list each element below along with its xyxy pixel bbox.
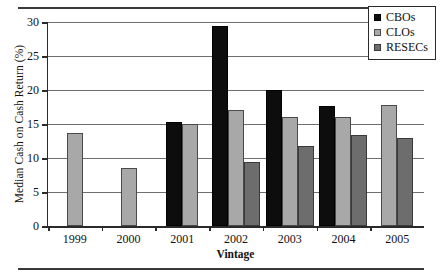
chart-legend: CBOsCLOsRESECs — [368, 6, 436, 60]
y-tick-15 — [42, 124, 48, 126]
bar-clos-2003 — [282, 117, 298, 226]
x-tick-4 — [263, 226, 265, 231]
legend-label-resecs: RESECs — [386, 41, 428, 54]
y-tick-label-30: 30 — [27, 15, 39, 30]
figure-container: Median Cash on Cash Return (%) 051015202… — [0, 0, 442, 280]
x-tick-label-2000: 2000 — [117, 232, 141, 247]
x-tick-6 — [370, 226, 372, 231]
x-tick-label-2005: 2005 — [385, 232, 409, 247]
y-tick-5 — [42, 192, 48, 194]
legend-swatch-clos-icon — [374, 29, 381, 36]
gridline-20 — [48, 90, 424, 91]
y-tick-10 — [42, 158, 48, 160]
y-tick-label-20: 20 — [27, 83, 39, 98]
x-tick-label-2003: 2003 — [278, 232, 302, 247]
bar-clos-1999 — [67, 133, 83, 226]
x-tick-label-1999: 1999 — [63, 232, 87, 247]
x-tick-label-2002: 2002 — [224, 232, 248, 247]
bar-clos-2001 — [182, 124, 198, 226]
x-tick-3 — [209, 226, 211, 231]
x-axis-title: Vintage — [47, 248, 424, 260]
bar-resecs-2004 — [351, 135, 367, 226]
gridline-0 — [48, 226, 424, 228]
bar-resecs-2005 — [397, 138, 413, 226]
x-tick-1 — [102, 226, 104, 231]
legend-label-clos: CLOs — [386, 26, 415, 39]
bar-cbos-2002 — [212, 26, 228, 226]
y-tick-25 — [42, 56, 48, 58]
y-tick-label-5: 5 — [33, 185, 39, 200]
bar-resecs-2003 — [298, 146, 314, 226]
bar-clos-2005 — [381, 105, 397, 226]
legend-label-cbos: CBOs — [386, 11, 415, 24]
y-tick-label-25: 25 — [27, 49, 39, 64]
bar-resecs-2002 — [244, 162, 260, 226]
x-tick-2 — [155, 226, 157, 231]
y-axis-title: Median Cash on Cash Return (%) — [13, 14, 25, 234]
y-tick-label-10: 10 — [27, 151, 39, 166]
y-tick-label-15: 15 — [27, 117, 39, 132]
y-tick-20 — [42, 90, 48, 92]
bar-clos-2002 — [228, 110, 244, 226]
figure-top-rule — [18, 7, 424, 9]
x-tick-5 — [317, 226, 319, 231]
y-tick-label-0: 0 — [33, 219, 39, 234]
figure-bottom-rule — [18, 268, 424, 270]
legend-item-clos: CLOs — [374, 25, 428, 40]
bar-cbos-2003 — [266, 90, 282, 226]
legend-swatch-cbos-icon — [374, 14, 381, 21]
bar-cbos-2004 — [319, 106, 335, 226]
x-tick-label-2004: 2004 — [331, 232, 355, 247]
legend-item-resecs: RESECs — [374, 40, 428, 55]
bar-cbos-2001 — [166, 122, 182, 226]
bar-clos-2000 — [121, 168, 137, 226]
x-tick-label-2001: 2001 — [170, 232, 194, 247]
legend-swatch-resecs-icon — [374, 44, 381, 51]
y-tick-30 — [42, 22, 48, 24]
bar-clos-2004 — [335, 117, 351, 226]
legend-item-cbos: CBOs — [374, 10, 428, 25]
x-tick-0 — [48, 226, 50, 231]
